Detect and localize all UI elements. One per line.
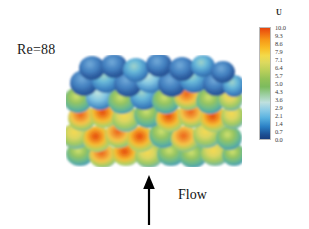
colorbar-tick: 1.4	[275, 121, 283, 127]
colorbar-tick: 2.1	[275, 113, 283, 119]
cfd-packed-bed-figure: Re=88	[0, 0, 309, 229]
colorbar-title: U	[276, 8, 282, 17]
colorbar-gradient	[259, 27, 271, 140]
up-arrow-icon	[138, 175, 160, 225]
colorbar-tick: 3.6	[275, 97, 283, 103]
colorbar-tick: 5.0	[275, 81, 283, 87]
colorbar-tick: 5.7	[275, 73, 283, 79]
colorbar-tick: 0.7	[275, 129, 283, 135]
colorbar-tick: 6.4	[275, 65, 283, 71]
colorbar-tick: 9.3	[275, 33, 283, 39]
flow-direction-label: Flow	[178, 187, 207, 203]
colorbar-tick: 7.1	[275, 57, 283, 63]
colorbar-tick: 4.3	[275, 89, 283, 95]
colorbar-tick: 7.9	[275, 49, 283, 55]
colorbar-tick: 2.9	[275, 105, 283, 111]
colorbar-tick: 8.6	[275, 41, 283, 47]
colorbar-tick: 10.0	[275, 25, 286, 31]
colorbar-legend: U 10.0 9.3 8.6 7.9 7.1 6.4 5.7 5.0 4.3 3…	[255, 8, 309, 148]
colorbar-tick: 0.0	[275, 137, 283, 143]
reynolds-number-label: Re=88	[17, 42, 55, 58]
packed-bed-visualization	[66, 55, 242, 167]
